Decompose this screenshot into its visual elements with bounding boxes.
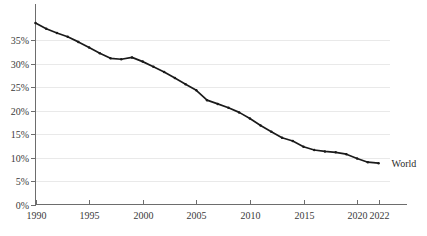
data-point [131,56,134,59]
data-point [163,71,166,74]
chart-container: 0%5%10%15%20%25%30%35% 19901995200020052… [0,0,427,236]
data-point [377,162,380,165]
y-tick-label-5: 5% [16,176,29,187]
data-point [77,41,80,44]
x-tick-label-2005: 2005 [187,210,207,221]
data-point [45,27,48,30]
data-point [174,77,177,80]
data-point [324,150,327,153]
data-point [66,35,69,38]
data-point [120,58,123,61]
data-point [259,124,262,127]
data-point [249,117,252,120]
data-point [206,99,209,102]
data-point [88,46,91,49]
y-tick-label-15: 15% [11,129,29,140]
x-tick-label-2000: 2000 [134,210,154,221]
y-tick-label-30: 30% [11,59,29,70]
data-point [356,157,359,160]
y-tick-label-35: 35% [11,35,29,46]
data-point [270,130,273,133]
data-point [281,137,284,140]
data-point [313,149,316,152]
y-tick-label-10: 10% [11,153,29,164]
y-tick-label-25: 25% [11,82,29,93]
data-point [34,22,37,25]
x-tick-label-1995: 1995 [80,210,100,221]
x-tick-label-2015: 2015 [295,210,315,221]
x-tick-label-1990: 1990 [27,210,47,221]
data-point [367,161,370,164]
x-tick-label-2010: 2010 [241,210,261,221]
data-point [302,145,305,148]
data-point [238,111,241,114]
data-point [99,52,102,55]
data-point [141,60,144,63]
data-point [184,83,187,86]
data-point [345,153,348,156]
line-chart: 0%5%10%15%20%25%30%35% 19901995200020052… [0,0,427,236]
series-label-world: World [392,158,417,169]
data-point [216,103,219,106]
x-tick-label-2020: 2020 [348,210,368,221]
data-point [109,57,112,60]
data-point [227,106,230,109]
y-tick-label-20: 20% [11,106,29,117]
x-tick-label-2022: 2022 [370,210,390,221]
data-point [334,151,337,154]
data-point [292,140,295,143]
data-point [195,89,198,92]
data-point [152,66,155,69]
data-point [56,32,59,35]
